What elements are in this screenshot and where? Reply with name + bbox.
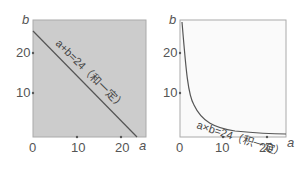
right-y-tick-20: 20 (163, 45, 177, 60)
right-x-tick-0: 0 (176, 140, 183, 155)
left-x-tick-10: 10 (71, 140, 85, 155)
right-plot-area (180, 20, 286, 137)
right-x-axis-label: a (287, 135, 294, 150)
left-y-tick-20: 20 (16, 45, 30, 60)
left-x-tick-20: 20 (115, 140, 129, 155)
right-y-tick-10: 10 (163, 85, 177, 100)
left-x-axis-label: a (139, 138, 146, 153)
left-y-tick-10: 10 (16, 85, 30, 100)
right-x-tick-10: 10 (215, 140, 229, 155)
right-chart: b a 20 10 0 10 20 a×b=24（积一定） (163, 12, 294, 158)
left-chart: b a 20 10 0 10 20 a+b=24（和一定） (16, 12, 146, 155)
charts-canvas: b a 20 10 0 10 20 a+b=24（和一定） b a 20 10 … (0, 0, 302, 169)
right-y-axis-label: b (169, 12, 176, 27)
left-y-axis-label: b (22, 12, 29, 27)
left-x-tick-0: 0 (29, 140, 36, 155)
